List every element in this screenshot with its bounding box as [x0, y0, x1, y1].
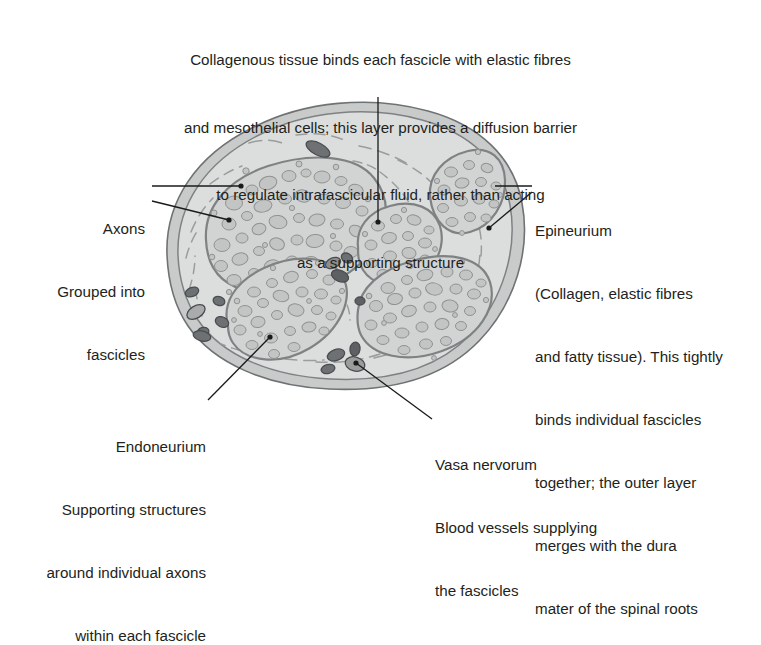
endoneurium-line-2: Supporting structures [0, 499, 206, 520]
epineurium-line-2: (Collagen, elastic fibres [535, 283, 761, 304]
caption-line-2: and mesothelial cells; this layer provid… [0, 117, 761, 140]
epineurium-line-3: and fatty tissue). This tightly [535, 346, 761, 367]
axons-line-3: fascicles [0, 344, 145, 365]
vasa-nervorum-annotation: Vasa nervorum Blood vessels supplying th… [435, 412, 685, 643]
axons-label: Axons [0, 218, 145, 239]
axons-annotation: Axons Grouped into fascicles [0, 176, 145, 407]
axons-line-2: Grouped into [0, 281, 145, 302]
vasa-nervorum-line-3: the fascicles [435, 580, 685, 601]
endoneurium-label: Endoneurium [0, 436, 206, 457]
endoneurium-line-4: within each fascicle [0, 625, 206, 645]
vasa-nervorum-label: Vasa nervorum [435, 454, 685, 475]
epineurium-label: Epineurium [535, 220, 761, 241]
endoneurium-line-3: around individual axons [0, 562, 206, 583]
caption-line-1: Collagenous tissue binds each fascicle w… [0, 49, 761, 72]
vasa-nervorum-line-2: Blood vessels supplying [435, 517, 685, 538]
endoneurium-annotation: Endoneurium Supporting structures around… [0, 394, 206, 645]
